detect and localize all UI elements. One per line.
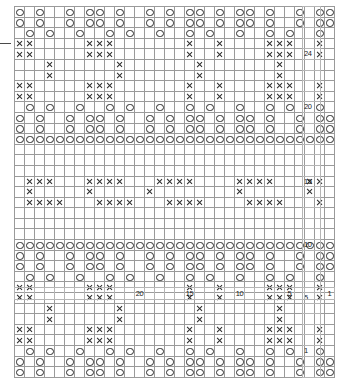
chart-cell	[135, 261, 145, 272]
chart-cell	[115, 356, 125, 367]
chart-cell	[135, 271, 145, 282]
row-number-label	[303, 134, 321, 145]
chart-cell	[245, 197, 255, 208]
chart-cell	[145, 70, 155, 81]
chart-cell	[45, 324, 55, 335]
chart-cell	[35, 91, 45, 102]
chart-cell	[45, 208, 55, 219]
row-number-label	[303, 28, 321, 39]
chart-cell	[225, 38, 235, 49]
chart-cell	[115, 38, 125, 49]
chart-cell	[75, 197, 85, 208]
chart-cell	[105, 123, 115, 134]
chart-cell	[145, 303, 155, 314]
chart-cell	[35, 70, 45, 81]
column-number-label	[255, 288, 265, 300]
chart-cell	[245, 144, 255, 155]
chart-cell	[245, 335, 255, 346]
chart-cell	[55, 59, 65, 70]
chart-row	[15, 303, 335, 314]
chart-cell	[15, 7, 25, 18]
chart-cell	[95, 123, 105, 134]
chart-cell	[75, 112, 85, 123]
chart-cell	[15, 335, 25, 346]
chart-cell	[125, 250, 135, 261]
chart-cell	[75, 70, 85, 81]
chart-cell	[105, 324, 115, 335]
chart-cell	[65, 229, 75, 240]
chart-cell	[135, 28, 145, 39]
chart-cell	[175, 324, 185, 335]
chart-cell	[255, 38, 265, 49]
chart-cell	[165, 324, 175, 335]
chart-cell	[255, 134, 265, 145]
chart-cell	[145, 218, 155, 229]
chart-cell	[235, 335, 245, 346]
chart-cell	[35, 7, 45, 18]
chart-cell	[285, 356, 295, 367]
chart-cell	[85, 81, 95, 92]
chart-cell	[75, 240, 85, 251]
chart-cell	[95, 218, 105, 229]
chart-cell	[155, 261, 165, 272]
chart-cell	[285, 176, 295, 187]
chart-cell	[225, 240, 235, 251]
chart-row	[15, 187, 335, 198]
chart-cell	[75, 59, 85, 70]
chart-cell	[195, 49, 205, 60]
chart-cell	[285, 28, 295, 39]
chart-cell	[255, 176, 265, 187]
chart-row	[15, 7, 335, 18]
chart-cell	[185, 367, 195, 378]
chart-cell	[25, 303, 35, 314]
chart-cell	[45, 38, 55, 49]
chart-cell	[175, 144, 185, 155]
chart-cell	[285, 17, 295, 28]
chart-cell	[215, 38, 225, 49]
chart-cell	[245, 59, 255, 70]
chart-cell	[95, 208, 105, 219]
chart-cell	[285, 155, 295, 166]
chart-cell	[75, 81, 85, 92]
chart-cell	[125, 197, 135, 208]
chart-cell	[265, 134, 275, 145]
chart-cell	[175, 314, 185, 325]
chart-cell	[15, 367, 25, 378]
chart-cell	[125, 49, 135, 60]
chart-cell	[265, 38, 275, 49]
chart-cell	[195, 176, 205, 187]
chart-cell	[135, 187, 145, 198]
chart-cell	[185, 165, 195, 176]
row-number-label: 1	[303, 346, 321, 357]
chart-cell	[285, 81, 295, 92]
chart-cell	[85, 356, 95, 367]
chart-cell	[55, 91, 65, 102]
chart-cell	[175, 134, 185, 145]
chart-cell	[245, 28, 255, 39]
chart-cell	[185, 91, 195, 102]
chart-cell	[205, 187, 215, 198]
chart-cell	[75, 134, 85, 145]
chart-cell	[45, 165, 55, 176]
chart-cell	[215, 229, 225, 240]
chart-cell	[175, 271, 185, 282]
chart-cell	[85, 197, 95, 208]
chart-cell	[65, 38, 75, 49]
chart-cell	[85, 155, 95, 166]
chart-cell	[145, 208, 155, 219]
chart-cell	[215, 70, 225, 81]
chart-cell	[195, 240, 205, 251]
row-number-label	[303, 208, 321, 219]
chart-cell	[75, 250, 85, 261]
chart-cell	[35, 28, 45, 39]
chart-cell	[135, 165, 145, 176]
chart-cell	[175, 303, 185, 314]
chart-cell	[95, 367, 105, 378]
row-number-label	[303, 314, 321, 325]
chart-cell	[15, 165, 25, 176]
chart-cell	[215, 367, 225, 378]
chart-cell	[65, 208, 75, 219]
chart-cell	[325, 123, 335, 134]
chart-cell	[185, 218, 195, 229]
chart-row	[15, 165, 335, 176]
